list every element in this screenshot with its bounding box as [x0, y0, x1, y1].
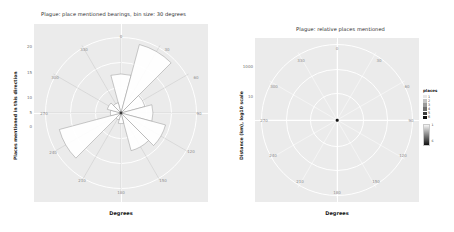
- left-ytick-10: 10: [18, 95, 32, 100]
- polar-spoke: [337, 120, 376, 188]
- left-deg-270: 270: [40, 111, 48, 116]
- polar-spoke: [269, 81, 337, 120]
- right-deg-300: 300: [270, 84, 278, 89]
- right-plot-area: [255, 38, 419, 202]
- left-deg-210: 210: [78, 178, 86, 183]
- right-deg-120: 120: [399, 153, 407, 158]
- polar-spoke: [337, 81, 405, 120]
- legend-gradient-block: 1 6: [423, 124, 453, 146]
- figure-root: Plague: place mentioned bearings, bin si…: [0, 0, 454, 232]
- polar-spoke: [337, 52, 376, 120]
- legend-swatch: [423, 107, 427, 111]
- polar-spoke: [298, 52, 337, 120]
- right-deg-180: 180: [333, 190, 341, 195]
- legend-discrete-block: places 123456: [423, 88, 453, 120]
- left-deg-30: 30: [164, 47, 169, 52]
- right-deg-150: 150: [372, 179, 380, 184]
- left-ytick-5: 5: [18, 110, 32, 115]
- left-plot-title: Plague: place mentioned bearings, bin si…: [0, 11, 227, 17]
- legend-gradient-labels: 1 6: [432, 124, 434, 144]
- right-ytick-10: 10: [237, 94, 253, 99]
- left-deg-60: 60: [193, 75, 198, 80]
- legend-swatch: [423, 99, 427, 103]
- left-deg-330: 330: [80, 47, 88, 52]
- legend-gradient-max: 1: [432, 124, 434, 127]
- left-x-axis-title: Degrees: [34, 210, 208, 216]
- right-deg-90: 90: [408, 118, 413, 123]
- scatter-point: [336, 119, 339, 122]
- polar-spoke: [269, 120, 337, 159]
- right-deg-240: 240: [269, 153, 277, 158]
- left-y-axis-title: Places mentioned in this direction: [13, 71, 18, 160]
- right-y-axis-title: Distance (km), log10 scale: [239, 91, 244, 160]
- right-deg-0: 0: [336, 46, 339, 51]
- polar-spoke: [337, 120, 405, 159]
- left-deg-180: 180: [117, 190, 125, 195]
- left-ytick-20: 20: [18, 44, 32, 49]
- left-deg-300: 300: [51, 75, 59, 80]
- rose-origin-point: [120, 112, 123, 115]
- legend-swatch: [423, 95, 427, 99]
- left-ytick-15: 15: [18, 70, 32, 75]
- legend-gradient-bar: [423, 124, 430, 146]
- right-deg-60: 60: [404, 84, 409, 89]
- left-deg-0: 0: [120, 34, 123, 39]
- legend: places 123456 1 6: [423, 88, 453, 150]
- legend-key-label: 6: [428, 115, 430, 119]
- polar-spoke: [298, 120, 337, 188]
- legend-title: places: [423, 88, 453, 93]
- left-deg-240: 240: [49, 150, 57, 155]
- right-deg-270: 270: [260, 118, 268, 123]
- right-plot-title: Plague: relative places mentioned: [227, 26, 454, 32]
- legend-swatch: [423, 116, 427, 120]
- right-deg-210: 210: [296, 179, 304, 184]
- left-plot-area: [34, 24, 208, 202]
- rose-petals: [34, 24, 208, 202]
- panel-polar-scatter: Plague: relative places mentioned Distan…: [227, 0, 454, 232]
- legend-swatch: [423, 112, 427, 116]
- right-x-axis-title: Degrees: [255, 210, 419, 216]
- right-deg-30: 30: [376, 58, 381, 63]
- left-ytick-0: 0: [18, 124, 32, 129]
- legend-swatch: [423, 103, 427, 107]
- panel-rose-histogram: Plague: place mentioned bearings, bin si…: [0, 0, 227, 232]
- left-deg-90: 90: [196, 111, 201, 116]
- left-deg-150: 150: [159, 178, 167, 183]
- legend-gradient-min: 6: [432, 140, 434, 143]
- right-deg-330: 330: [297, 58, 305, 63]
- rose-petal: [59, 113, 121, 158]
- legend-row[interactable]: 6: [423, 115, 453, 119]
- left-deg-120: 120: [187, 149, 195, 154]
- right-ytick-1000: 1000: [237, 64, 253, 69]
